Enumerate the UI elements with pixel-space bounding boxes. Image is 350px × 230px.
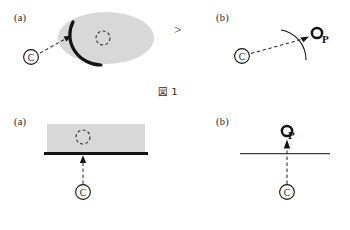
profile-label-fig2-a: P bbox=[94, 134, 101, 146]
profile-label-fig1-b: P bbox=[322, 33, 329, 45]
caption-figure-1: 図 1 bbox=[158, 84, 178, 98]
figure-2: (a) P (b) P > 図 2（山梨 2000: 100) bbox=[0, 108, 350, 230]
profile-label-fig2-b: P bbox=[288, 129, 295, 141]
panel-label-fig1-b: (b) bbox=[216, 12, 229, 23]
comparison-separator-fig1: > bbox=[174, 22, 181, 38]
fig1-panel-a: (a) P bbox=[0, 0, 175, 108]
fig2-panel-b: (b) P bbox=[175, 108, 350, 230]
fig1-panel-b: (b) P bbox=[175, 0, 350, 108]
panel-label-fig1-a: (a) bbox=[14, 12, 26, 23]
figure-1: (a) P (b) P > 図 1 bbox=[0, 0, 350, 108]
fig2-panel-a: (a) P bbox=[0, 108, 175, 230]
profile-label-fig1-a: P bbox=[119, 40, 126, 52]
panel-label-fig2-a: (a) bbox=[14, 116, 26, 127]
figure-sheet: (a) P (b) P > 図 1 (a) P (b) P > 図 2（山梨 2… bbox=[0, 0, 350, 230]
panel-label-fig2-b: (b) bbox=[216, 116, 229, 127]
